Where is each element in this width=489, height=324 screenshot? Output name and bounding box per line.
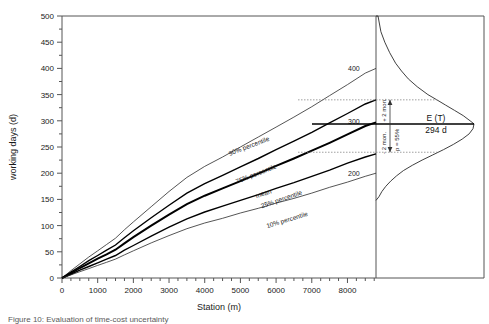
arrow-head-down-icon [388, 147, 393, 152]
x-tick-label: 7000 [303, 286, 321, 295]
plot-frame [62, 16, 484, 278]
probability-label: p = 55% [394, 128, 400, 151]
x-tick-label: 6000 [267, 286, 285, 295]
x-tick-label: 3000 [160, 286, 178, 295]
y-tick-label: 150 [41, 195, 55, 204]
curve-label-4: 10% percentile [265, 210, 309, 230]
figure-caption: Figure 10: Evaluation of time-cost uncer… [8, 314, 482, 324]
construction-time-chart: 050100150200250300350400450500 010002000… [0, 0, 489, 312]
expected-value-text: 294 d [425, 125, 447, 135]
expected-value-title: E (T) [427, 113, 446, 123]
endpoint-label-0: 400 [348, 65, 360, 72]
y-tick-label: 100 [41, 222, 55, 231]
y-tick-label: 50 [45, 248, 54, 257]
endpoint-label-2: 200 [348, 170, 360, 177]
y-tick-label: 350 [41, 91, 55, 100]
x-tick-label: 0 [60, 286, 65, 295]
y-tick-label: 500 [41, 12, 55, 21]
y-tick-label: 200 [41, 169, 55, 178]
distribution-panel: + 2 mon. - 2 mon. p = 55% E (T) 294 d [298, 16, 474, 200]
curve-labels: 90% percentile75% percentilemean25% perc… [228, 135, 310, 230]
x-tick-label: 8000 [339, 286, 357, 295]
y-tick-label: 300 [41, 117, 55, 126]
x-axis-title: Station (m) [197, 302, 241, 312]
y-tick-label: 250 [41, 143, 55, 152]
y-tick-label: 400 [41, 64, 55, 73]
y-axis-title: working days (d) [8, 114, 18, 181]
series-line-3 [62, 154, 376, 278]
x-tick-label: 2000 [124, 286, 142, 295]
x-tick-label: 1000 [89, 286, 107, 295]
probability-density-curve [376, 16, 474, 200]
y-tick-label: 0 [50, 274, 55, 283]
x-tick-label: 5000 [232, 286, 250, 295]
upper-bound-label: + 2 mon. [381, 98, 387, 122]
y-axis-ticks: 050100150200250300350400450500 [41, 12, 62, 283]
x-axis-ticks: 010002000300040005000600070008000 [60, 278, 374, 295]
lower-bound-label: - 2 mon. [381, 132, 387, 154]
curve-label-0: 90% percentile [228, 135, 271, 158]
y-tick-label: 450 [41, 38, 55, 47]
x-tick-label: 4000 [196, 286, 214, 295]
curve-label-2: mean [255, 187, 273, 199]
arrow-head-up-icon [388, 100, 393, 105]
figure-container: 050100150200250300350400450500 010002000… [0, 0, 489, 324]
series-line-2 [62, 122, 376, 278]
